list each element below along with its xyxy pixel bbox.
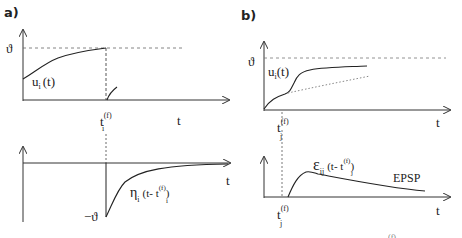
threshold-label: ϑ [6,41,13,56]
x-axis-label: t [436,115,440,130]
cropped-fragment: (f) [388,233,396,238]
curve-label-u: ui(t) [268,64,289,81]
panel-b-label: b) [241,8,256,23]
eta-label: ηi(t- t(f)) [130,184,170,204]
panel-a-bottom-plot [23,134,230,222]
x-axis-label: t [177,113,181,128]
curve-label-u: ui(t) [32,74,55,91]
spike-time-sub: i [102,124,105,133]
min-label: −ϑ [84,209,98,224]
panel-a-top-plot [23,30,229,101]
epsilon-arg-sub: j [350,169,353,177]
reset-curve [107,87,117,100]
panel-b-top-plot [264,42,450,128]
epsp-annotation: EPSP [393,171,421,185]
x-axis-label: t [436,203,440,218]
panel-a-label: a) [4,5,19,20]
diagram-canvas: a) ϑ ui(t) t(f) i t −ϑ ηi(t- t(f)) i t b… [0,0,462,238]
spike-time-sub: j [279,219,282,228]
x-axis-label: t [226,173,230,188]
eta-arg-sub: i [166,197,168,205]
spike-time-label: t(f) [277,117,289,135]
epsilon-label: εij(t- t(f)) [313,156,354,176]
panel-b-bottom-plot [264,130,450,198]
threshold-label: ϑ [248,54,255,69]
unperturbed-potential-curve [288,76,370,93]
spike-time-label: t(f) [277,204,289,222]
